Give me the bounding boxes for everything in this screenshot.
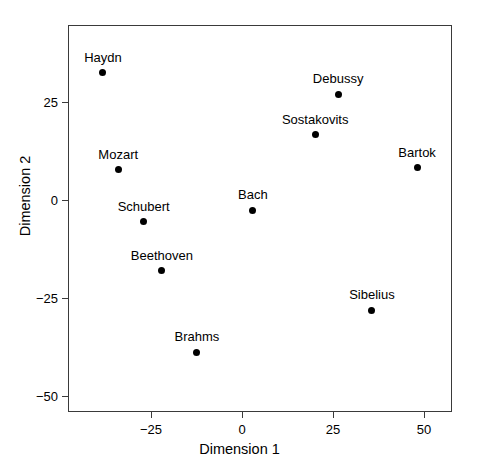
y-axis-tick-label: −50 [20, 390, 58, 403]
x-axis-tick [424, 412, 425, 418]
y-axis-tick [62, 200, 68, 201]
x-axis-tick-label: 25 [326, 423, 340, 436]
data-point-label: Brahms [174, 330, 219, 343]
y-axis-tick [62, 298, 68, 299]
data-point-label: Debussy [313, 72, 364, 85]
data-point-label: Mozart [98, 148, 138, 161]
x-axis-tick-label: 0 [238, 423, 245, 436]
y-axis-title: Dimension 2 [17, 76, 33, 316]
data-point-label: Schubert [118, 200, 170, 213]
y-axis-tick [62, 396, 68, 397]
data-point [193, 349, 200, 356]
x-axis-title: Dimension 1 [0, 441, 479, 457]
x-axis-tick [151, 412, 152, 418]
y-axis-tick [62, 102, 68, 103]
x-axis-tick-label: 50 [417, 423, 431, 436]
plot-area-border [68, 25, 452, 412]
x-axis-tick [242, 412, 243, 418]
data-point-label: Sostakovits [282, 113, 348, 126]
x-axis-tick [333, 412, 334, 418]
data-point-label: Sibelius [349, 288, 395, 301]
x-axis-tick-label: −25 [140, 423, 162, 436]
data-point-label: Haydn [84, 51, 122, 64]
data-point-label: Bach [238, 188, 268, 201]
data-point [414, 164, 421, 171]
data-point [335, 91, 342, 98]
data-point-label: Bartok [398, 146, 436, 159]
data-point-label: Beethoven [131, 249, 193, 262]
scatter-plot: 250−25−50−2502550 HaydnMozartSchubertBee… [0, 0, 479, 472]
